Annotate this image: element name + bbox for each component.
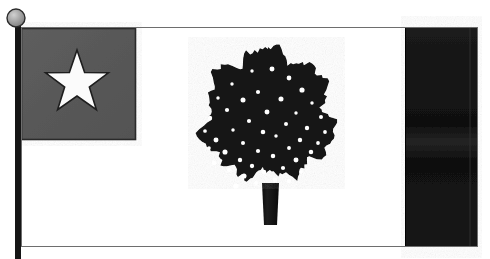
magnolia-blossom — [214, 138, 219, 143]
magnolia-blossom — [299, 87, 304, 92]
magnolia-blossom — [238, 158, 242, 162]
magnolia-blossom — [299, 170, 303, 174]
magnolia-blossom — [241, 141, 245, 145]
magnolia-blossom — [250, 69, 253, 72]
magnolia-blossom — [273, 178, 278, 183]
fly-stripe — [405, 27, 478, 247]
magnolia-blossom — [309, 150, 314, 155]
magnolia-blossom — [262, 170, 266, 174]
pole-finial-ball — [7, 9, 25, 27]
magnolia-blossom — [287, 146, 291, 150]
magnolia-blossom — [227, 168, 231, 172]
magnolia-blossom — [274, 134, 277, 137]
canton — [21, 28, 136, 140]
magnolia-blossom — [212, 161, 217, 166]
magnolia-blossom — [284, 122, 288, 126]
magnolia-blossom — [298, 138, 302, 142]
magnolia-blossom — [294, 111, 297, 114]
magnolia-blossom — [216, 96, 220, 100]
magnolia-blossom — [265, 110, 270, 115]
magnolia-blossom — [287, 179, 291, 183]
magnolia-blossom — [261, 130, 266, 135]
magnolia-blossom — [323, 130, 327, 134]
magnolia-blossom — [250, 164, 254, 168]
magnolia-blossom — [281, 166, 285, 170]
magnolia-blossom — [316, 141, 320, 145]
tree-trunk — [262, 183, 279, 225]
magnolia-blossom — [231, 128, 234, 131]
magnolia-blossom — [203, 129, 207, 133]
flag-canvas — [0, 0, 490, 259]
magnolia-blossom — [278, 96, 283, 101]
magnolia-blossom — [310, 101, 313, 104]
magnolia-blossom — [230, 82, 233, 85]
magnolia-blossom — [207, 146, 211, 150]
pole-shaft — [15, 22, 21, 259]
flag-illustration — [0, 0, 490, 259]
magnolia-blossom — [287, 76, 292, 81]
magnolia-blossom — [241, 98, 246, 103]
magnolia-blossom — [225, 108, 229, 112]
magnolia-blossom — [319, 115, 323, 119]
magnolia-blossom — [256, 90, 260, 94]
magnolia-blossom — [247, 119, 251, 123]
magnolia-blossom — [241, 173, 246, 178]
magnolia-blossom — [270, 67, 275, 72]
magnolia-blossom — [305, 126, 309, 130]
magnolia-blossom — [208, 116, 212, 120]
magnolia-blossom — [294, 158, 299, 163]
magnolia-blossom — [256, 149, 260, 153]
magnolia-blossom — [254, 181, 258, 185]
magnolia-blossom — [222, 149, 227, 154]
magnolia-blossom — [233, 183, 238, 188]
magnolia-blossom — [271, 154, 275, 158]
